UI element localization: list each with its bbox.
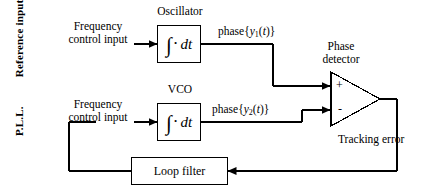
phase-detector-plus-sign: + (336, 78, 343, 93)
side-label-pll: P.L.L. (13, 98, 25, 144)
pll-block-diagram: Reference input P.L.L. Oscillator ∫ · dt… (0, 0, 430, 191)
integral-icon: ∫ (166, 35, 172, 56)
side-label-reference-input: Reference input (13, 15, 25, 77)
loop-filter-label: Loop filter (154, 164, 206, 179)
integral-icon: ∫ (166, 113, 172, 134)
phase-detector-title: Phase detector (305, 40, 377, 66)
reference-control-input-label: Frequency control input (58, 20, 138, 46)
vco-title: VCO (150, 83, 210, 96)
oscillator-integrator-block: ∫ · dt (157, 25, 201, 63)
middle-dot-icon: · (173, 112, 179, 132)
dt-symbol: dt (180, 36, 192, 53)
loop-filter-block: Loop filter (131, 157, 228, 185)
vco-control-input-label: Frequency control input (58, 98, 138, 124)
dt-symbol: dt (180, 114, 192, 131)
signal-label-phase-y1: phase{y1(t)} (218, 25, 275, 38)
tracking-error-label: Tracking error (338, 133, 404, 146)
vco-integrator-block: ∫ · dt (157, 103, 201, 141)
phase-detector-minus-sign: - (338, 102, 342, 117)
middle-dot-icon: · (173, 34, 179, 54)
oscillator-title: Oscillator (140, 5, 220, 18)
signal-label-phase-y2: phase{y2(t)} (212, 103, 269, 116)
